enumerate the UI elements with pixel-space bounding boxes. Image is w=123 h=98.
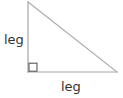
vertical-leg-label: leg bbox=[4, 33, 24, 46]
right-triangle-legs-diagram: leg leg bbox=[0, 0, 123, 98]
horizontal-leg-label: leg bbox=[61, 80, 81, 93]
hypotenuse-line bbox=[28, 2, 117, 72]
right-angle-marker-icon bbox=[29, 63, 37, 71]
